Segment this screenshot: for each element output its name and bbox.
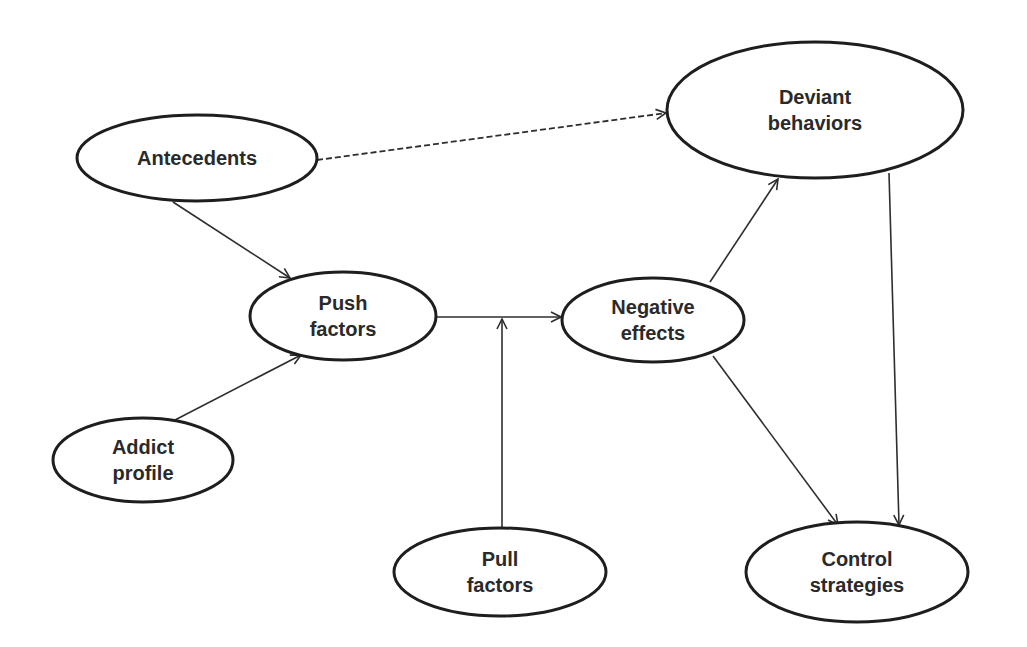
node-label-addict: Addict (112, 436, 175, 458)
ellipse-control (746, 522, 968, 622)
node-label-deviant: behaviors (768, 112, 862, 134)
node-label-deviant: Deviant (779, 86, 852, 108)
node-deviant: Deviantbehaviors (667, 42, 963, 178)
arrow-negative-to-control (713, 356, 838, 525)
node-antecedents: Antecedents (77, 115, 317, 201)
node-control: Controlstrategies (746, 522, 968, 622)
node-label-negative: Negative (611, 296, 694, 318)
node-label-negative: effects (621, 322, 685, 344)
arrow-antecedents-to-push (173, 202, 290, 278)
node-label-push: Push (319, 292, 368, 314)
ellipse-push (250, 272, 436, 360)
node-label-push: factors (310, 318, 377, 340)
diagram-canvas: AntecedentsDeviantbehaviorsPushfactorsNe… (0, 0, 1027, 647)
nodes-layer: AntecedentsDeviantbehaviorsPushfactorsNe… (53, 42, 968, 622)
ellipse-addict (53, 418, 233, 502)
node-label-addict: profile (112, 462, 173, 484)
node-label-control: strategies (810, 574, 905, 596)
node-pull: Pullfactors (394, 528, 606, 616)
node-label-antecedents: Antecedents (137, 147, 257, 169)
node-label-pull: factors (467, 574, 534, 596)
ellipse-deviant (667, 42, 963, 178)
node-negative: Negativeeffects (562, 278, 744, 362)
ellipse-pull (394, 528, 606, 616)
node-addict: Addictprofile (53, 418, 233, 502)
node-push: Pushfactors (250, 272, 436, 360)
node-label-pull: Pull (482, 548, 519, 570)
node-label-control: Control (821, 548, 892, 570)
arrow-addict-to-push (175, 355, 301, 420)
ellipse-negative (562, 278, 744, 362)
arrow-deviant-to-control (889, 173, 899, 525)
arrow-negative-to-deviant (710, 179, 778, 282)
arrow-antecedents-to-deviant (317, 113, 666, 160)
